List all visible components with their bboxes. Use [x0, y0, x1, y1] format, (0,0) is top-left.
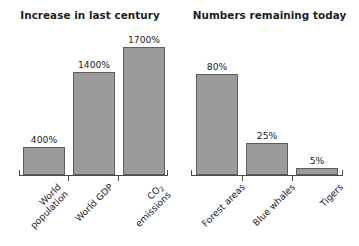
x-axis-right-left-cap: [191, 170, 192, 176]
bar-value-forest-areas: 80%: [196, 61, 238, 72]
bar-tigers: [296, 168, 338, 175]
plot-area-right: 80% 25% 5% Forest areas Blue whales Tige…: [180, 0, 359, 246]
plot-area-left: 400% 1400% 1700% World population World …: [0, 0, 180, 246]
x-label-blue-whales-line1: Blue whales: [242, 182, 297, 237]
bar-value-tigers: 5%: [296, 155, 338, 166]
x-label-tigers: Tigers: [297, 182, 345, 230]
x-axis-tick-2: [118, 176, 119, 181]
x-axis-right-right-cap: [342, 170, 343, 176]
x-label-tigers-line1: Tigers: [297, 182, 345, 230]
x-label-world-population: World population: [16, 182, 70, 236]
x-label-world-gdp-line1: World GDP: [68, 182, 115, 229]
bar-forest-areas: [196, 74, 238, 175]
x-axis-tick-r1: [242, 176, 243, 181]
two-panel-bar-chart-figure: Increase in last century 400% 1400% 1700…: [0, 0, 359, 246]
x-axis-tick-r2: [292, 176, 293, 181]
bar-world-population: [23, 147, 65, 175]
x-label-forest-areas: Forest areas: [192, 182, 247, 237]
bar-blue-whales: [246, 143, 288, 175]
chart-panel-increase: Increase in last century 400% 1400% 1700…: [0, 0, 180, 246]
x-axis-tick-1: [68, 176, 69, 181]
x-label-co2-emissions: CO2 emissions: [118, 182, 173, 237]
x-label-blue-whales: Blue whales: [242, 182, 297, 237]
x-label-world-gdp: World GDP: [68, 182, 115, 229]
x-axis-left-cap: [19, 170, 20, 176]
bar-co2-emissions: [123, 47, 165, 175]
bar-value-blue-whales: 25%: [246, 130, 288, 141]
bar-value-world-population: 400%: [23, 134, 65, 145]
x-axis-line-left: [19, 175, 168, 176]
x-axis-right-cap: [167, 170, 168, 176]
chart-panel-remaining: Numbers remaining today 80% 25% 5% Fores…: [180, 0, 359, 246]
bar-world-gdp: [73, 72, 115, 175]
x-axis-line-right: [191, 175, 343, 176]
x-label-forest-areas-line1: Forest areas: [192, 182, 247, 237]
bar-value-co2-emissions: 1700%: [121, 34, 167, 45]
bar-value-world-gdp: 1400%: [71, 59, 117, 70]
